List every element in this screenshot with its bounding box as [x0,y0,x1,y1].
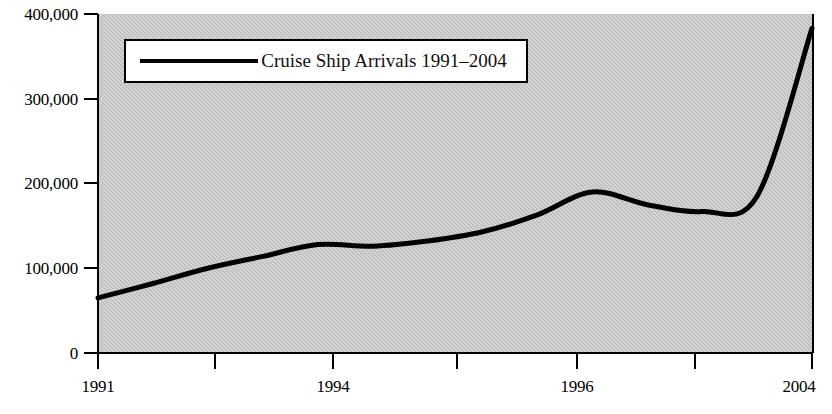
x-axis-ticks [98,353,812,369]
legend-line-swatch-icon [140,59,258,63]
cruise-ship-arrivals-line-chart: 400,000 300,000 200,000 100,000 0 1991 1… [0,0,832,414]
x-tick-label-1991: 1991 [58,377,138,397]
x-tick-label-1996: 1996 [537,377,617,397]
y-tick-label-0: 0 [0,344,78,364]
y-axis-ticks [84,14,98,353]
y-tick-label-200000: 200,000 [0,174,78,194]
y-tick-label-400000: 400,000 [0,5,78,25]
x-tick-label-1994: 1994 [293,377,373,397]
chart-legend: Cruise Ship Arrivals 1991–2004 [124,39,528,83]
x-tick-label-2004: 2004 [766,377,832,397]
y-tick-label-300000: 300,000 [0,90,78,110]
legend-series-label: Cruise Ship Arrivals 1991–2004 [258,50,526,72]
y-tick-label-100000: 100,000 [0,259,78,279]
